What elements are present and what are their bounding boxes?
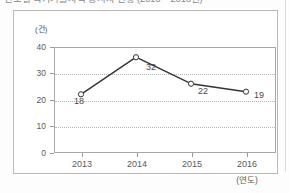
scanned-page: 연도별 국가기술자격 응시자 현황 (2013 ~ 2016년) (건) 40 … bbox=[0, 0, 289, 193]
y-tick-mark-30 bbox=[50, 73, 54, 74]
y-tick-mark-10 bbox=[50, 126, 54, 127]
x-tick-label-2014: 2014 bbox=[115, 159, 159, 169]
x-tick-mark-2016 bbox=[247, 153, 248, 157]
x-tick-mark-2013 bbox=[82, 153, 83, 157]
data-label-2016: 19 bbox=[254, 91, 264, 100]
x-axis-unit-label: (연도) bbox=[225, 173, 269, 185]
y-tick-label-30: 30 bbox=[16, 69, 46, 77]
page-edge-rule bbox=[285, 0, 286, 172]
y-tick-label-10: 10 bbox=[16, 122, 46, 130]
x-tick-mark-2015 bbox=[192, 153, 193, 157]
x-tick-label-2016: 2016 bbox=[225, 159, 269, 169]
y-tick-label-20: 20 bbox=[16, 96, 46, 104]
y-tick-label-40: 40 bbox=[16, 43, 46, 51]
plot-area bbox=[54, 47, 276, 153]
gridline-10 bbox=[55, 127, 275, 128]
data-label-2014: 32 bbox=[146, 63, 156, 72]
data-label-2013: 18 bbox=[74, 97, 84, 106]
y-tick-mark-40 bbox=[50, 47, 54, 48]
x-tick-mark-2014 bbox=[137, 153, 138, 157]
gridline-30 bbox=[55, 74, 275, 75]
y-tick-mark-20 bbox=[50, 100, 54, 101]
x-tick-label-2015: 2015 bbox=[170, 159, 214, 169]
figure-box: (건) 40 30 20 10 0 2013 2014 2015 2016 (연… bbox=[13, 10, 278, 174]
figure-heading: 연도별 국가기술자격 응시자 현황 (2013 ~ 2016년) bbox=[4, 0, 286, 6]
y-tick-mark-0 bbox=[50, 153, 54, 154]
data-label-2015: 22 bbox=[198, 87, 208, 96]
y-axis-unit-label: (건) bbox=[35, 23, 47, 34]
gridline-20 bbox=[55, 101, 275, 102]
x-tick-label-2013: 2013 bbox=[60, 159, 104, 169]
y-tick-label-0: 0 bbox=[16, 149, 46, 157]
